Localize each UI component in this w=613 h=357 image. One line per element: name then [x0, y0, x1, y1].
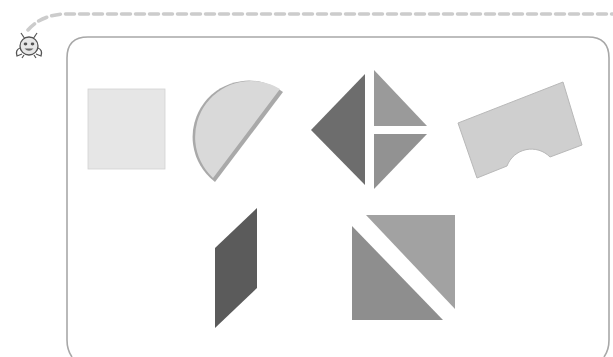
shape-semicircle — [193, 81, 283, 182]
shape-diamond — [311, 70, 427, 189]
shape-arch-block — [458, 82, 582, 178]
diamond-upper-right-triangle — [374, 70, 427, 126]
shape-square-of-triangles — [352, 215, 455, 320]
shape-parallelogram — [215, 208, 257, 328]
bug-mascot-icon — [16, 33, 41, 58]
worksheet-stage: bug mascot icon Worksheet illustration s… — [0, 0, 613, 357]
diamond-lower-right-triangle — [374, 134, 427, 189]
shape-square — [88, 89, 165, 169]
diamond-left-triangle — [311, 74, 365, 185]
frame-border — [67, 37, 609, 357]
shapes-scene — [0, 0, 613, 357]
dashed-header-line — [28, 14, 613, 30]
